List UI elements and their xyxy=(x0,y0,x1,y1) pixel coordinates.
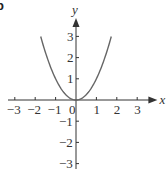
y-tick-label: −2 xyxy=(59,135,73,150)
tick-labels: −3−2−10123−3−2−1123 xyxy=(7,29,141,169)
parabola-graph: b xy −3−2−10123−3−2−1123 xyxy=(0,0,166,169)
x-tick-label: 2 xyxy=(114,102,121,117)
x-tick-label: −3 xyxy=(7,102,21,117)
y-axis-label: y xyxy=(70,2,78,17)
x-axis-arrow-icon xyxy=(148,97,157,104)
y-tick-label: −1 xyxy=(59,114,73,129)
y-tick-label: 2 xyxy=(67,50,74,65)
x-axis-label: x xyxy=(158,92,165,107)
panel-label: b xyxy=(0,0,4,13)
x-tick-label: −2 xyxy=(27,102,41,117)
x-tick-label: 1 xyxy=(93,102,100,117)
axes: xy xyxy=(8,2,165,169)
y-axis-arrow-icon xyxy=(73,18,80,27)
x-tick-label: 3 xyxy=(134,102,141,117)
y-tick-label: −3 xyxy=(59,156,73,169)
panel-letter: b xyxy=(0,0,4,13)
y-tick-label: 3 xyxy=(67,29,74,44)
y-tick-label: 1 xyxy=(67,71,74,86)
